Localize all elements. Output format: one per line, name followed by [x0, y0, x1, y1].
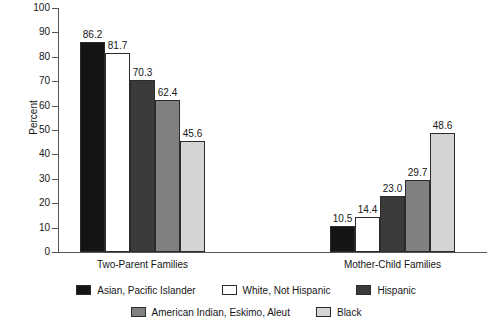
bar [405, 180, 430, 252]
x-axis-category-label: Two-Parent Families [73, 259, 213, 270]
y-axis-tick-label: 80 [20, 52, 50, 62]
y-axis-tick-mark [52, 252, 58, 253]
bar-value-label: 48.6 [426, 121, 459, 131]
legend-item: Asian, Pacific Islander [76, 285, 195, 296]
plot-area: 86.281.770.362.445.610.514.423.029.748.6 [58, 8, 487, 252]
bar-value-label: 45.6 [176, 129, 209, 139]
y-axis-tick-label: 30 [20, 174, 50, 184]
bar [105, 53, 130, 252]
bar [380, 196, 405, 252]
bar [80, 42, 105, 252]
legend-item: Hispanic [356, 285, 415, 296]
legend-row-top: Asian, Pacific IslanderWhite, Not Hispan… [0, 279, 492, 301]
bar-value-label: 86.2 [76, 30, 109, 40]
y-axis-tick-label: 0 [20, 247, 50, 257]
legend-item: American Indian, Eskimo, Aleut [131, 307, 290, 318]
bar [355, 217, 380, 252]
legend-swatch-icon [222, 285, 237, 295]
legend-swatch-icon [356, 285, 371, 295]
y-axis-tick-label: 20 [20, 198, 50, 208]
legend-swatch-icon [316, 307, 331, 317]
legend-item: Black [316, 307, 361, 318]
y-axis-tick-label: 100 [20, 3, 50, 13]
y-axis-tick-label: 90 [20, 27, 50, 37]
bar-value-label: 70.3 [126, 68, 159, 78]
y-axis-tick-label: 60 [20, 101, 50, 111]
legend-swatch-icon [76, 285, 91, 295]
legend-label: White, Not Hispanic [243, 285, 331, 296]
bar [130, 80, 155, 252]
legend-swatch-icon [131, 307, 146, 317]
bar [330, 226, 355, 252]
y-axis-tick-label: 40 [20, 149, 50, 159]
legend-item: White, Not Hispanic [222, 285, 331, 296]
legend-row-bottom: American Indian, Eskimo, AleutBlack [0, 301, 492, 323]
bar [180, 141, 205, 252]
legend-label: Asian, Pacific Islander [97, 285, 195, 296]
bar-value-label: 81.7 [101, 41, 134, 51]
y-axis-tick-label: 10 [20, 223, 50, 233]
y-axis-tick-label: 50 [20, 125, 50, 135]
legend-label: American Indian, Eskimo, Aleut [152, 307, 290, 318]
legend-label: Black [337, 307, 361, 318]
bar [155, 100, 180, 252]
bar [430, 133, 455, 252]
x-axis-category-label: Mother-Child Families [323, 259, 463, 270]
legend-label: Hispanic [377, 285, 415, 296]
bar-chart: Percent 1009080706050403020100 86.281.77… [0, 0, 492, 333]
x-axis-line [58, 252, 487, 253]
bar-value-label: 62.4 [151, 88, 184, 98]
chart-legend: Asian, Pacific IslanderWhite, Not Hispan… [0, 279, 492, 323]
y-axis-tick-label: 70 [20, 76, 50, 86]
